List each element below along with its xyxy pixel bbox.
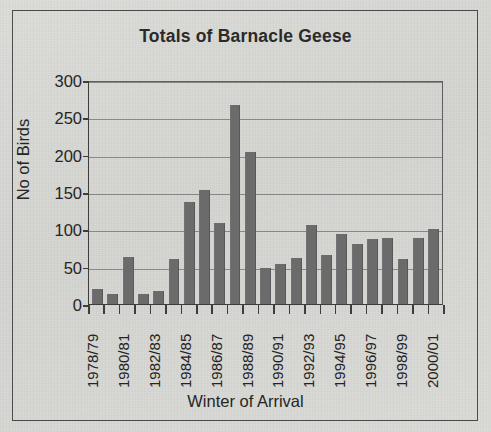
y-tick-label: 200 [38, 146, 82, 165]
bar-slot [334, 82, 349, 304]
bar-slot [304, 82, 319, 304]
y-tick-mark [83, 193, 89, 195]
bar-slot [197, 82, 212, 304]
bar[interactable] [199, 190, 210, 304]
bar-slot [151, 82, 166, 304]
x-tick-label: 1992/93 [300, 334, 317, 388]
bar-slot [258, 82, 273, 304]
x-tick-mark [165, 305, 167, 314]
bar-slot [319, 82, 334, 304]
x-tick-mark [242, 305, 244, 314]
bar-slot [411, 82, 426, 304]
bar-slot [288, 82, 303, 304]
x-tick-mark [273, 305, 275, 314]
y-tick-label: 50 [38, 258, 82, 277]
x-tick-mark [335, 305, 337, 314]
x-tick-label: 1984/85 [177, 334, 194, 388]
bar[interactable] [169, 259, 180, 304]
bar[interactable] [230, 105, 241, 304]
x-tick-mark [88, 305, 90, 314]
y-tick-mark [83, 268, 89, 270]
bar-slot [182, 82, 197, 304]
x-tick-label: 1988/89 [239, 334, 256, 388]
y-tick-label: 0 [38, 296, 82, 315]
bar-slot [212, 82, 227, 304]
bar-slot [426, 82, 441, 304]
bar[interactable] [321, 255, 332, 304]
x-tick-label: 1982/83 [146, 334, 163, 388]
bar[interactable] [398, 259, 409, 304]
y-tick-label: 300 [38, 72, 82, 91]
bar-slot [227, 82, 242, 304]
x-tick-label: 1994/95 [331, 334, 348, 388]
bar[interactable] [352, 244, 363, 304]
y-tick-label: 100 [38, 221, 82, 240]
bar-slot [136, 82, 151, 304]
bar-series [89, 82, 442, 304]
x-tick-mark [150, 305, 152, 314]
x-tick-mark [397, 305, 399, 314]
x-axis-title: Winter of Arrival [0, 392, 491, 411]
x-tick-mark [381, 305, 383, 314]
plot-area [88, 81, 443, 305]
bar[interactable] [123, 257, 134, 304]
bar[interactable] [291, 258, 302, 304]
x-tick-mark [227, 305, 229, 314]
bar-slot [395, 82, 410, 304]
bar[interactable] [138, 294, 149, 304]
x-tick-label: 1978/79 [84, 334, 101, 388]
x-axis-tick-labels: 1978/791980/811982/831984/851986/871988/… [88, 316, 443, 388]
bar-slot [273, 82, 288, 304]
bar-slot [105, 82, 120, 304]
x-tick-label: 1990/91 [269, 334, 286, 388]
x-tick-mark [196, 305, 198, 314]
x-tick-label: 1980/81 [115, 334, 132, 388]
bar[interactable] [336, 234, 347, 304]
chart-page: Totals of Barnacle Geese No of Birds 050… [0, 0, 491, 432]
y-tick-label: 150 [38, 184, 82, 203]
x-tick-label: 2000/01 [424, 334, 441, 388]
y-axis-title: No of Birds [14, 100, 33, 220]
x-tick-mark [258, 305, 260, 314]
x-tick-mark [103, 305, 105, 314]
y-axis-tick-labels: 050100150200250300 [34, 81, 82, 305]
bar-slot [365, 82, 380, 304]
x-tick-label: 1986/87 [208, 334, 225, 388]
x-tick-label: 1998/99 [393, 334, 410, 388]
x-tick-mark [181, 305, 183, 314]
x-tick-mark [350, 305, 352, 314]
y-tick-mark [83, 156, 89, 158]
x-tick-mark [119, 305, 121, 314]
x-tick-mark [304, 305, 306, 314]
bar[interactable] [260, 268, 271, 304]
bar-slot [380, 82, 395, 304]
x-tick-mark [366, 305, 368, 314]
bar-slot [90, 82, 105, 304]
bar-slot [243, 82, 258, 304]
y-tick-label: 250 [38, 109, 82, 128]
x-tick-mark [412, 305, 414, 314]
bar[interactable] [214, 223, 225, 304]
x-tick-mark [211, 305, 213, 314]
bar[interactable] [275, 264, 286, 304]
bar[interactable] [107, 294, 118, 304]
bar[interactable] [382, 238, 393, 304]
x-tick-label: 1996/97 [362, 334, 379, 388]
bar[interactable] [184, 202, 195, 304]
bar[interactable] [428, 229, 439, 304]
x-tick-mark [443, 305, 445, 314]
bar[interactable] [413, 238, 424, 304]
x-tick-mark [134, 305, 136, 314]
bar[interactable] [306, 225, 317, 304]
x-tick-mark [320, 305, 322, 314]
x-tick-mark [428, 305, 430, 314]
bar[interactable] [153, 291, 164, 304]
x-tick-mark [289, 305, 291, 314]
y-tick-mark [83, 118, 89, 120]
y-tick-mark [83, 81, 89, 83]
bar[interactable] [367, 239, 378, 304]
y-tick-mark [83, 230, 89, 232]
bar-slot [121, 82, 136, 304]
bar[interactable] [245, 152, 256, 304]
bar[interactable] [92, 289, 103, 304]
